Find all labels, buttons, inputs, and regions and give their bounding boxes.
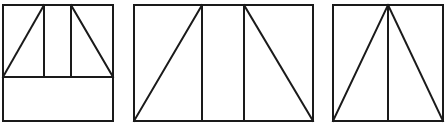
figure-2 [134, 5, 313, 121]
figure-1 [3, 5, 113, 121]
diagram-canvas [0, 0, 448, 130]
figure-1-frame [3, 5, 113, 121]
figure-3 [333, 5, 443, 121]
figure-2-frame [134, 5, 313, 121]
